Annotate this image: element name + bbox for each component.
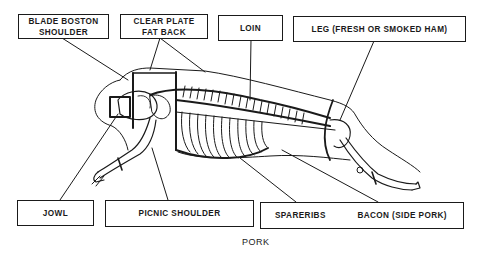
label-clear-plate-fat-back: CLEAR PLATE FAT BACK [120, 14, 208, 39]
label-spareribs: SPARERIBS [275, 210, 326, 221]
label-line: SHOULDER [28, 27, 98, 38]
label-spareribs-bacon: SPARERIBS BACON (SIDE PORK) [260, 202, 464, 229]
label-text: LEG (FRESH OR SMOKED HAM) [312, 24, 448, 35]
label-line: FAT BACK [133, 27, 194, 38]
label-blade-boston-shoulder: BLADE BOSTON SHOULDER [18, 14, 109, 39]
label-text: JOWL [43, 208, 68, 219]
label-line: CLEAR PLATE [133, 16, 194, 27]
label-line: BLADE BOSTON [28, 16, 98, 27]
label-text: LOIN [240, 23, 261, 34]
label-jowl: JOWL [17, 200, 94, 226]
diagram-caption: PORK [242, 237, 270, 247]
label-picnic-shoulder: PICNIC SHOULDER [105, 200, 254, 227]
label-leg: LEG (FRESH OR SMOKED HAM) [293, 16, 466, 42]
label-bacon: BACON (SIDE PORK) [357, 210, 447, 221]
label-loin: LOIN [218, 15, 283, 41]
pork-cuts-diagram: BLADE BOSTON SHOULDER CLEAR PLATE FAT BA… [0, 0, 485, 258]
label-text: PICNIC SHOULDER [139, 208, 221, 219]
